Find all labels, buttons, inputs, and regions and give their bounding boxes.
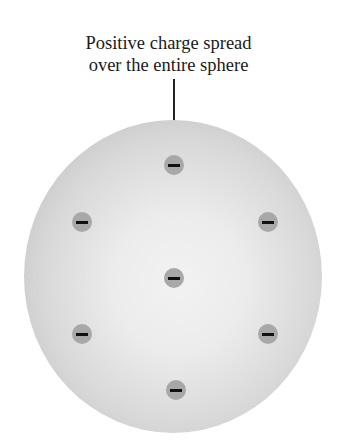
electron	[258, 212, 278, 232]
label-line-1: Positive charge spread	[0, 32, 337, 54]
minus-sign-icon	[168, 164, 180, 167]
sphere-label: Positive charge spread over the entire s…	[0, 32, 337, 76]
minus-sign-icon	[76, 221, 88, 224]
electron	[166, 380, 186, 400]
label-line-2: over the entire sphere	[0, 54, 337, 76]
electron	[72, 324, 92, 344]
electron	[72, 212, 92, 232]
minus-sign-icon	[262, 221, 274, 224]
minus-sign-icon	[170, 389, 182, 392]
electron	[164, 268, 184, 288]
electron	[258, 324, 278, 344]
minus-sign-icon	[76, 333, 88, 336]
minus-sign-icon	[262, 333, 274, 336]
electron	[164, 155, 184, 175]
minus-sign-icon	[168, 277, 180, 280]
